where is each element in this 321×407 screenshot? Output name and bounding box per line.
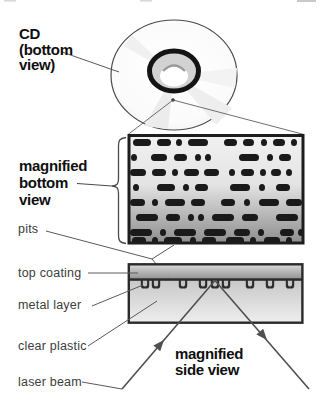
top-coating-label: top coating	[18, 267, 81, 280]
pit	[212, 214, 234, 221]
pit	[184, 169, 199, 176]
side-pit-bump-inner	[248, 281, 252, 287]
magnified-bottom-brace	[112, 138, 126, 244]
clear-plastic-label: clear plastic	[18, 340, 87, 353]
pit	[244, 199, 250, 206]
pit	[136, 214, 158, 221]
magnified-bottom-view-label-line: bottom	[19, 174, 87, 191]
pit	[286, 199, 302, 206]
cd-structure-diagram: CD (bottom view) magnified bottom view p…	[0, 0, 321, 407]
magnified-side-view-label-line: magnified	[175, 346, 243, 362]
pit	[176, 139, 182, 146]
pit	[276, 214, 298, 221]
pit	[166, 214, 180, 221]
pit	[131, 154, 137, 161]
pit	[241, 169, 254, 176]
magnified-bottom-view-label: magnified bottom view	[19, 157, 87, 208]
side-pit-bump-inner	[143, 281, 147, 287]
scan-artifacts	[4, 0, 316, 2]
top-coating-layer	[128, 265, 303, 279]
pit	[152, 199, 158, 206]
magnified-side-view-label-line: side view	[175, 362, 243, 378]
magnified-bottom-view-label-line: view	[19, 191, 87, 208]
pit	[152, 169, 166, 176]
pit	[276, 184, 290, 191]
pit	[271, 169, 281, 176]
pit	[157, 139, 171, 146]
magnified-side-view-box	[128, 264, 303, 323]
pit	[261, 139, 267, 146]
pit	[280, 229, 294, 236]
pit	[130, 229, 152, 236]
pit	[243, 139, 254, 146]
pit	[260, 169, 266, 176]
pit	[204, 229, 226, 236]
pit	[195, 154, 201, 161]
pit	[172, 169, 178, 176]
scan-artifact	[297, 0, 316, 2]
pit	[160, 229, 166, 236]
cd-label-line: (bottom	[19, 42, 73, 58]
scan-artifact	[140, 0, 152, 2]
pit	[242, 214, 258, 221]
pit	[291, 139, 297, 146]
pit	[286, 169, 292, 176]
pit	[151, 154, 167, 161]
pit	[195, 184, 208, 191]
pit	[229, 169, 235, 176]
pit	[133, 139, 151, 146]
pit	[259, 199, 279, 206]
pit	[188, 139, 208, 146]
cd-disc-group	[111, 20, 237, 130]
laser-beam-label: laser beam	[18, 376, 82, 389]
side-pit-bump-inner	[288, 281, 292, 287]
pit	[279, 154, 291, 161]
pits-label: pits	[18, 223, 38, 236]
cd-label-line: view)	[19, 57, 73, 73]
magnified-bottom-view-box	[129, 136, 304, 245]
side-pit-bump-inner	[224, 281, 228, 287]
pit	[198, 214, 204, 221]
cd-label: CD (bottom view)	[19, 26, 73, 73]
pit	[165, 199, 185, 206]
pit	[273, 139, 285, 146]
pit	[224, 139, 237, 146]
pit	[130, 199, 145, 206]
pit	[205, 154, 211, 161]
pit	[259, 184, 265, 191]
pit	[221, 199, 235, 206]
pit	[230, 184, 250, 191]
pit	[183, 184, 189, 191]
side-pit-bump-inner	[154, 281, 158, 287]
pit	[191, 199, 205, 206]
pit	[174, 154, 187, 161]
magnified-bottom-view-label-line: magnified	[19, 157, 87, 174]
pit	[133, 184, 139, 191]
pit	[234, 229, 250, 236]
pit	[267, 154, 273, 161]
cd-label-line: CD	[19, 26, 73, 42]
side-pit-bump-inner	[201, 281, 205, 287]
side-pit-bump-inner	[181, 281, 185, 287]
side-pit-bump-inner	[268, 281, 272, 287]
pit	[174, 229, 196, 236]
magnified-side-view-label: magnified side view	[175, 346, 243, 378]
pit	[130, 169, 146, 176]
metal-layer-label: metal layer	[18, 299, 81, 312]
pit	[204, 169, 219, 176]
scan-artifact	[4, 0, 16, 2]
pit	[239, 154, 259, 161]
laser-beam-pointer	[82, 382, 122, 389]
pit	[157, 184, 175, 191]
pit	[258, 229, 264, 236]
pit	[188, 214, 194, 221]
